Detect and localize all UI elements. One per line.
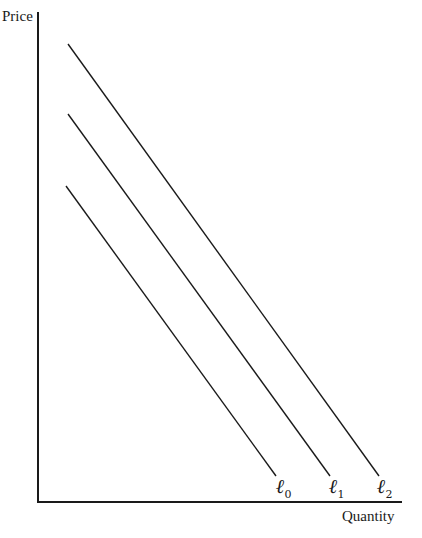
curve-label-l0-sub: 0 xyxy=(285,488,292,501)
curve-l1 xyxy=(68,114,330,476)
curve-label-l2: ℓ2 xyxy=(377,476,393,500)
x-axis-label: Quantity xyxy=(342,508,395,525)
y-axis-label: Price xyxy=(2,8,33,25)
diagram-canvas xyxy=(0,0,422,538)
curve-l0 xyxy=(66,186,276,476)
curve-label-l1: ℓ1 xyxy=(329,476,345,500)
curve-label-l1-base: ℓ xyxy=(329,474,338,498)
curve-label-l1-sub: 1 xyxy=(338,488,345,501)
curve-l2 xyxy=(68,44,379,476)
curve-label-l0: ℓ0 xyxy=(276,476,292,500)
curve-label-l0-base: ℓ xyxy=(276,474,285,498)
curve-label-l2-base: ℓ xyxy=(377,474,386,498)
curve-label-l2-sub: 2 xyxy=(386,488,393,501)
